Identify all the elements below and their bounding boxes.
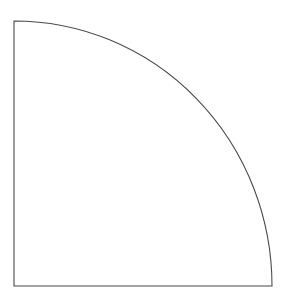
quarter-circle-diagram: Quarter circle sector outline Line drawi… <box>0 0 285 297</box>
figure-canvas: Quarter circle sector outline Line drawi… <box>0 0 285 297</box>
diagram-background <box>0 0 285 297</box>
